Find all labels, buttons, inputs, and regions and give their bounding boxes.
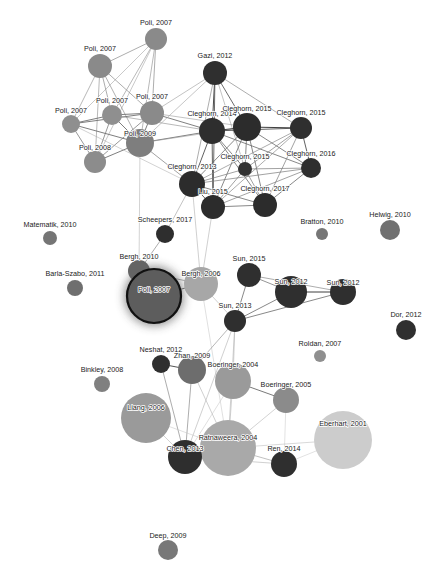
graph-node-label: Cleghorn, 2013 (167, 162, 216, 171)
graph-edge (140, 127, 247, 143)
graph-node-poli2007c[interactable] (102, 105, 122, 125)
graph-node-poli2008[interactable] (84, 151, 106, 173)
graph-node-label: Zhan, 2009 (174, 351, 210, 360)
graph-node-label: Chen, 2013 (166, 444, 203, 453)
graph-node-label: Cleghorn, 2015 (222, 104, 271, 113)
graph-node-label: Poli, 2007 (138, 285, 170, 294)
graph-node-label: Poli, 2009 (124, 129, 156, 138)
graph-node-label: Scheepers, 2017 (138, 215, 192, 224)
graph-node-cleghorn2015c[interactable] (238, 162, 252, 176)
graph-node-poli2007b[interactable] (88, 54, 112, 78)
graph-node-poli2007e[interactable] (62, 115, 80, 133)
graph-node-matematik2010[interactable] (43, 231, 57, 245)
graph-node-poli2007sel[interactable] (127, 269, 181, 323)
graph-node-poli2007d[interactable] (140, 101, 164, 125)
graph-node-liu2015[interactable] (201, 195, 225, 219)
graph-node-label: Sun, 2013 (219, 301, 252, 310)
graph-node-cleghorn2017[interactable] (253, 193, 277, 217)
graph-node-gazi2012[interactable] (203, 61, 227, 85)
graph-node-label: Sun, 2012 (275, 277, 308, 286)
graph-node-bratton2010[interactable] (316, 228, 328, 240)
graph-node-label: Barla-Szabo, 2011 (45, 269, 104, 278)
graph-node-cleghorn2015a[interactable] (233, 113, 261, 141)
graph-node-label: Matematik, 2010 (23, 220, 76, 229)
graph-node-label: Binkley, 2008 (81, 365, 124, 374)
graph-node-label: Cleghorn, 2017 (240, 184, 289, 193)
network-graph-canvas[interactable]: Poli, 2007Poli, 2007Poli, 2007Poli, 2007… (0, 0, 440, 576)
graph-node-sun2015[interactable] (237, 263, 261, 287)
graph-node-label: Bergh, 2006 (181, 269, 220, 278)
graph-node-label: Cleghorn, 2015 (220, 152, 269, 161)
graph-node-deep2009[interactable] (158, 540, 178, 560)
graph-node-neshat2012[interactable] (152, 355, 170, 373)
graph-node-label: Boeringer, 2005 (261, 380, 312, 389)
graph-node-label: Liang, 2006 (127, 403, 165, 412)
graph-node-scheepers2017[interactable] (156, 225, 174, 243)
graph-node-zhan2009[interactable] (178, 356, 206, 384)
graph-node-sun2013[interactable] (224, 310, 246, 332)
graph-node-cleghorn2014[interactable] (199, 118, 225, 144)
graph-node-label: Gazi, 2012 (198, 51, 233, 60)
graph-node-ratnaweera2004[interactable] (200, 420, 256, 476)
graph-edge (265, 128, 301, 205)
graph-node-label: Liu, 2015 (198, 187, 228, 196)
graph-node-label: Deep, 2009 (149, 531, 186, 540)
graph-node-label: Poli, 2007 (96, 96, 128, 105)
graph-node-label: Ratnaweera, 2004 (199, 433, 258, 442)
graph-node-label: Poli, 2007 (55, 106, 87, 115)
graph-node-label: Poli, 2007 (140, 18, 172, 27)
graph-node-label: Bergh, 2010 (119, 252, 158, 261)
graph-node-label: Poli, 2007 (84, 44, 116, 53)
graph-node-label: Helwig, 2010 (369, 210, 411, 219)
graph-node-label: Dor, 2012 (390, 310, 421, 319)
network-graph-svg[interactable]: Poli, 2007Poli, 2007Poli, 2007Poli, 2007… (0, 0, 440, 576)
graph-node-poli2007a[interactable] (145, 28, 167, 50)
graph-node-boeringer2005[interactable] (273, 387, 299, 413)
graph-node-label: Cleghorn, 2016 (286, 149, 335, 158)
graph-node-label: Roldan, 2007 (299, 339, 342, 348)
graph-node-roldan2007[interactable] (314, 350, 326, 362)
graph-node-cleghorn2015b[interactable] (290, 117, 312, 139)
graph-node-ren2014[interactable] (271, 451, 297, 477)
graph-node-binkley2008[interactable] (94, 376, 110, 392)
graph-node-label: Boeringer, 2004 (208, 360, 259, 369)
graph-node-label: Poli, 2007 (136, 92, 168, 101)
graph-node-label: Sun, 2012 (327, 278, 360, 287)
graph-node-barlaszabo2011[interactable] (67, 280, 83, 296)
graph-node-dor2012[interactable] (396, 320, 416, 340)
graph-node-label: Cleghorn, 2015 (276, 108, 325, 117)
graph-node-label: Poli, 2008 (79, 143, 111, 152)
graph-node-label: Eberhart, 2001 (319, 419, 367, 428)
graph-node-helwig2010[interactable] (380, 220, 400, 240)
graph-node-cleghorn2016[interactable] (301, 158, 321, 178)
graph-node-label: Bratton, 2010 (300, 217, 343, 226)
graph-node-liang2006[interactable] (121, 393, 171, 443)
graph-node-label: Sun, 2015 (233, 254, 266, 263)
graph-node-label: Ren, 2014 (267, 444, 300, 453)
